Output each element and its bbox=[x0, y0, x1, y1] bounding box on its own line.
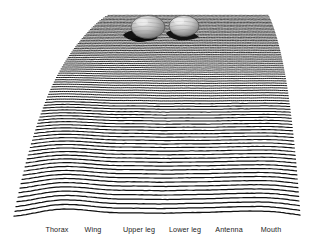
axis-label: Lower leg bbox=[169, 225, 201, 234]
axis-label: Thorax bbox=[46, 225, 69, 234]
mound-right bbox=[169, 16, 199, 37]
axis-label: Antenna bbox=[215, 225, 242, 234]
ridgeline-figure: ThoraxWingUpper legLower legAntennaMouth bbox=[0, 0, 312, 244]
mound-objects-group bbox=[0, 0, 312, 222]
axis-label: Mouth bbox=[261, 225, 281, 234]
mound-left bbox=[131, 16, 165, 39]
axis-label: Wing bbox=[85, 225, 102, 234]
axis-label: Upper leg bbox=[123, 225, 155, 234]
axis-label-row: ThoraxWingUpper legLower legAntennaMouth bbox=[0, 222, 312, 244]
